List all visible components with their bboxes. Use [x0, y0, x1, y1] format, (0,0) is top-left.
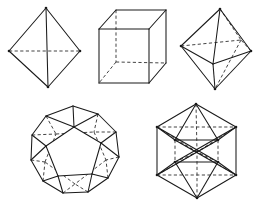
visible-edge [149, 63, 166, 83]
vertex-dot [45, 7, 48, 10]
vertex-dot [47, 86, 50, 89]
vertex-dot [250, 50, 253, 53]
solid-octahedron [172, 2, 258, 96]
vertex-dot [180, 45, 183, 48]
visible-edge [48, 51, 80, 87]
visible-edge [46, 8, 80, 51]
visible-edge [181, 46, 215, 89]
vertex-dot [156, 126, 159, 129]
solid-icosahedron [140, 96, 252, 210]
vertex-dot [156, 174, 159, 177]
visible-edge [9, 51, 48, 87]
vertex-dot [235, 126, 238, 129]
hidden-edge [99, 62, 116, 83]
vertex-dot [196, 197, 199, 200]
vertex-dot [214, 88, 217, 91]
visible-edge [181, 9, 220, 46]
vertex-dot [8, 50, 11, 53]
vertex-dot [235, 174, 238, 177]
visible-edge [149, 10, 166, 29]
hidden-edge [116, 62, 166, 63]
visible-edge [46, 8, 48, 87]
vertex-dot [219, 8, 222, 11]
visible-edge [220, 9, 251, 51]
hidden-edge [181, 40, 241, 46]
visible-edge [181, 46, 213, 64]
visible-edge [99, 10, 116, 29]
hidden-edge [215, 40, 241, 89]
vertex-dot [217, 139, 220, 142]
visible-edge [9, 8, 46, 51]
vertex-dot [195, 103, 198, 106]
solid-dodecahedron [20, 98, 132, 210]
visible-edge [213, 9, 220, 64]
solid-cube [88, 2, 174, 94]
vertex-dot [174, 161, 177, 164]
visible-edge [213, 64, 215, 89]
vertex-dot [79, 50, 82, 53]
vertex-dot [174, 139, 177, 142]
solid-tetrahedron [2, 2, 90, 94]
vertex-dot [217, 161, 220, 164]
platonic-solids-figure [0, 0, 258, 212]
